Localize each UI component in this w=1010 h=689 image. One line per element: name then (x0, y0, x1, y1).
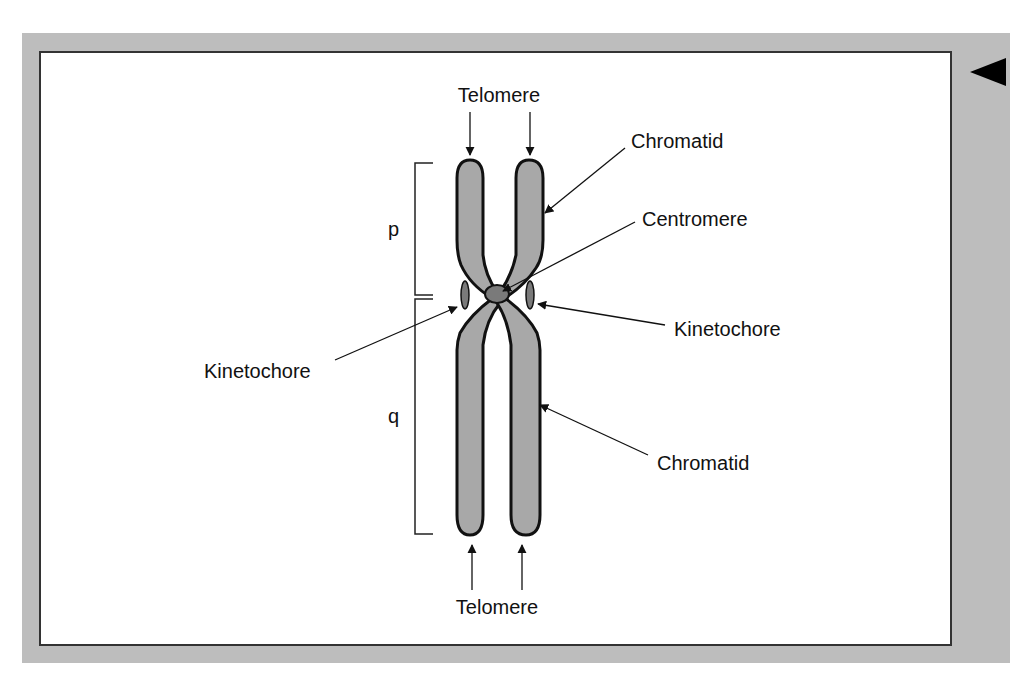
label-kinetochore-left: Kinetochore (204, 360, 311, 382)
label-chromatid-top: Chromatid (631, 130, 723, 152)
label-chromatid-bottom: Chromatid (657, 452, 749, 474)
arrow-chromatid-top (545, 148, 625, 213)
kinetochore-left (461, 281, 469, 309)
chromatid-right-top (500, 160, 543, 298)
label-q-arm: q (388, 405, 399, 427)
arrow-kinetochore-left (335, 307, 457, 360)
q-arm-bracket (415, 299, 433, 534)
label-p-arm: p (388, 218, 399, 240)
arrow-kinetochore-right (538, 304, 665, 325)
arrow-chromatid-bottom (540, 405, 648, 455)
triangle-left-icon[interactable] (970, 58, 1006, 86)
chromatid-left-top (457, 160, 497, 298)
label-kinetochore-right: Kinetochore (674, 318, 781, 340)
centromere (485, 285, 509, 303)
label-telomere-top: Telomere (458, 84, 540, 106)
label-telomere-bottom: Telomere (456, 596, 538, 618)
p-arm-bracket (415, 163, 433, 295)
kinetochore-right (526, 281, 534, 309)
chromatid-right-bottom (497, 298, 540, 535)
chromosome-diagram: Telomere Chromatid Centromere p Kinetoch… (0, 0, 1010, 689)
chromatid-left-bottom (457, 298, 500, 535)
label-centromere: Centromere (642, 208, 748, 230)
